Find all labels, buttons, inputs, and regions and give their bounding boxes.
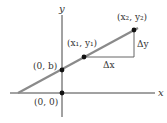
x-axis-label: x [158, 87, 164, 98]
line-slope-diagram: x y (0, 0) (0, b) (x₁, y₁) (x₂, y₂) Δx Δ… [0, 0, 167, 123]
rise-label: Δy [137, 39, 149, 49]
point-2 [132, 28, 137, 33]
point-2-label: (x₂, y₂) [117, 12, 147, 22]
y-axis-label: y [58, 3, 65, 14]
intercept-label: (0, b) [33, 61, 57, 71]
origin-label: (0, 0) [34, 97, 58, 107]
point-1-label: (x₁, y₁) [67, 38, 97, 48]
origin-point [60, 91, 65, 96]
point-1 [82, 55, 87, 60]
intercept-point [60, 68, 65, 73]
run-label: Δx [103, 60, 115, 70]
